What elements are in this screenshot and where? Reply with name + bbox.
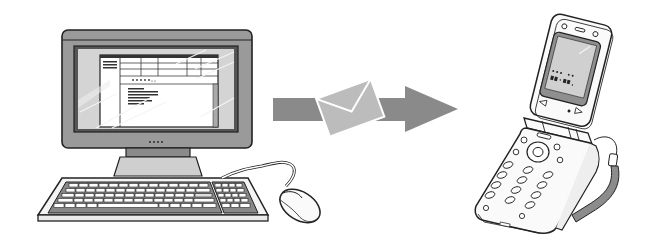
desktop-computer-icon [62,30,252,176]
keyboard-icon [38,178,268,221]
flip-phone-icon [475,12,619,233]
illustration-canvas [0,0,657,241]
envelope-icon [316,79,384,136]
